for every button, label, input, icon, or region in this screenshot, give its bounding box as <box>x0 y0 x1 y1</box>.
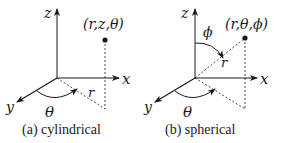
cylindrical-panel: z x y r θ (r,z,θ) (a) cylindrical <box>5 5 131 138</box>
y-axis <box>17 78 57 102</box>
y-axis-label: y <box>143 99 153 115</box>
radial-dashed-line <box>195 38 245 78</box>
point-label: (r,θ,ϕ) <box>225 16 268 32</box>
y-axis <box>155 78 195 102</box>
phi-arc <box>195 43 223 58</box>
spherical-caption: (b) spherical <box>165 122 235 138</box>
theta-arc <box>175 89 215 98</box>
z-axis-label: z <box>43 5 52 21</box>
radial-label: r <box>221 55 228 70</box>
spherical-panel: z x y r ϕ θ (r,θ,ϕ) (b) spherical <box>143 5 269 138</box>
y-axis-label: y <box>5 99 15 115</box>
phi-label: ϕ <box>203 24 213 40</box>
x-axis-label: x <box>122 70 131 88</box>
theta-arc <box>37 89 77 98</box>
radial-dashed-line <box>57 78 105 109</box>
z-axis-label: z <box>180 5 189 21</box>
point-label: (r,z,θ) <box>83 16 124 32</box>
point-marker <box>242 35 247 40</box>
x-axis-label: x <box>260 70 269 88</box>
theta-label: θ <box>183 103 192 121</box>
theta-label: θ <box>45 103 54 121</box>
radial-label: r <box>88 85 95 100</box>
projection-dashed-line <box>195 78 245 109</box>
point-marker <box>102 37 107 42</box>
coordinate-systems-diagram: z x y r θ (r,z,θ) (a) cylindrical z x y … <box>0 0 281 143</box>
cylindrical-caption: (a) cylindrical <box>22 122 101 138</box>
